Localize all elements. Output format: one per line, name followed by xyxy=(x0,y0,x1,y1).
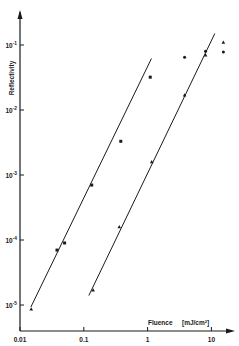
x-tick-label: 10 xyxy=(208,336,216,343)
y-tick-exponent: -1 xyxy=(13,41,18,46)
fit-line xyxy=(31,58,152,307)
y-tick-label: 10-3 xyxy=(6,171,18,180)
fit-lines xyxy=(31,34,215,307)
y-axis-arrow-icon xyxy=(18,10,23,19)
y-tick-exponent: -3 xyxy=(13,171,18,176)
y-tick-exponent: -5 xyxy=(13,301,18,306)
dot-marker xyxy=(204,50,207,53)
triangle-marker xyxy=(29,307,33,310)
square-marker xyxy=(119,140,122,143)
square-marker xyxy=(63,241,66,244)
x-tick-label: 0.1 xyxy=(79,336,88,343)
x-axis-unit: [mJ/cm²] xyxy=(182,319,209,327)
y-tick-label: 10-2 xyxy=(6,106,18,115)
dot-marker xyxy=(222,51,225,54)
x-axis-label: Fluence xyxy=(148,319,173,326)
y-tick-exponent: -4 xyxy=(13,236,18,241)
plot-area: 10-110-210-310-410-50.010.1110Reflectivi… xyxy=(0,0,239,346)
square-marker xyxy=(55,249,58,252)
fit-line xyxy=(89,34,215,296)
y-tick-exponent: -2 xyxy=(13,106,18,111)
axis-labels: 10-110-210-310-410-50.010.1110Reflectivi… xyxy=(6,41,216,344)
data-points xyxy=(29,41,225,311)
chart: 10-110-210-310-410-50.010.1110Reflectivi… xyxy=(0,0,239,346)
triangle-marker xyxy=(117,225,121,228)
y-tick-label: 10-1 xyxy=(6,41,18,50)
y-axis-label: Reflectivity xyxy=(8,60,16,95)
y-tick-label: 10-5 xyxy=(6,301,18,310)
x-tick-label: 1 xyxy=(146,336,150,343)
x-axis-arrow-icon xyxy=(226,329,235,334)
dot-marker xyxy=(183,56,186,59)
x-tick-label: 0.01 xyxy=(14,336,27,343)
square-marker xyxy=(149,76,152,79)
y-tick-label: 10-4 xyxy=(6,236,18,245)
triangle-marker xyxy=(222,41,226,44)
square-marker xyxy=(90,184,93,187)
